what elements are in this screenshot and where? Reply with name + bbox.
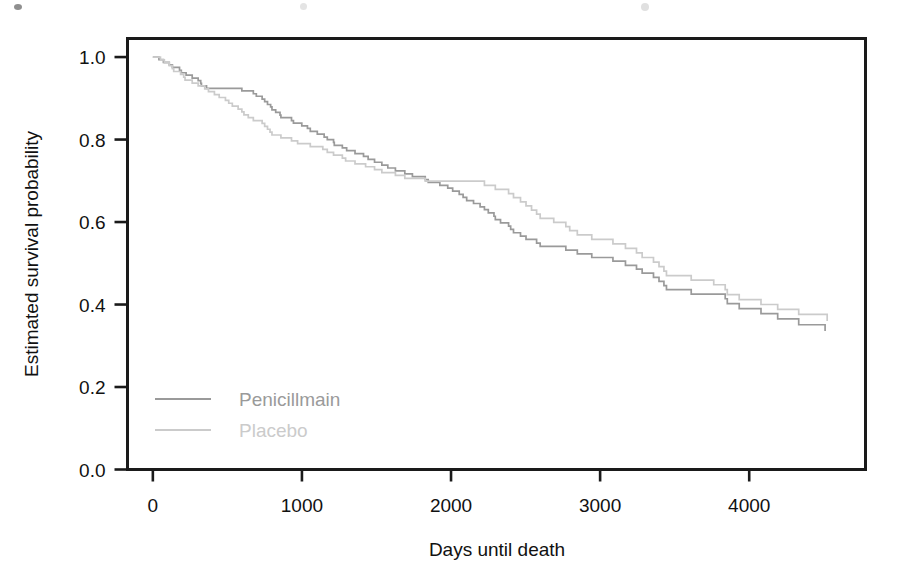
series-line-1 (153, 57, 827, 321)
series-lines (153, 57, 827, 331)
x-tick-label: 2000 (430, 495, 472, 516)
series-line-0 (153, 57, 825, 331)
y-tick-label: 0.8 (79, 130, 105, 151)
y-axis-tick-labels: 0.00.20.40.60.81.0 (79, 47, 106, 480)
survival-plot: 01000200030004000 0.00.20.40.60.81.0 Pen… (0, 0, 897, 584)
y-tick-label: 0.4 (79, 295, 106, 316)
legend-label-1: Placebo (239, 420, 308, 441)
x-tick-label: 3000 (579, 495, 621, 516)
x-tick-label: 1000 (281, 495, 323, 516)
y-tick-label: 1.0 (79, 47, 105, 68)
y-axis-title: Estimated survival probability (21, 130, 42, 377)
y-tick-label: 0.6 (79, 212, 105, 233)
chart-legend: PenicillmainPlacebo (155, 389, 340, 441)
x-axis-ticks (153, 470, 749, 482)
figure-canvas: 01000200030004000 0.00.20.40.60.81.0 Pen… (0, 0, 897, 584)
scan-speck (641, 3, 649, 11)
y-tick-label: 0.2 (79, 377, 105, 398)
x-tick-label: 0 (148, 495, 159, 516)
scan-speck (14, 4, 22, 10)
y-tick-label: 0.0 (79, 460, 105, 481)
legend-label-0: Penicillmain (239, 389, 340, 410)
x-axis-tick-labels: 01000200030004000 (148, 495, 771, 516)
y-axis-ticks (115, 57, 128, 469)
x-axis-title: Days until death (429, 539, 565, 560)
x-tick-label: 4000 (728, 495, 770, 516)
scan-speck (300, 3, 307, 10)
